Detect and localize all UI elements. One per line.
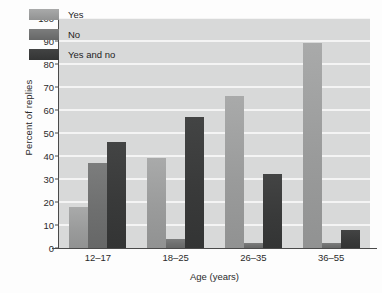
bar-group bbox=[225, 18, 282, 248]
y-axis-tick-label: 30 bbox=[24, 174, 54, 185]
x-axis-tick-label: 18–25 bbox=[162, 252, 188, 263]
bar bbox=[225, 96, 244, 248]
legend-swatch bbox=[29, 9, 59, 20]
y-axis-tick-label: 40 bbox=[24, 151, 54, 162]
y-axis-tick-label: 70 bbox=[24, 82, 54, 93]
legend-label: Yes bbox=[68, 9, 84, 20]
legend-item: Yes bbox=[29, 6, 169, 23]
legend-swatch bbox=[29, 49, 59, 60]
x-axis-tick-label: 26–35 bbox=[240, 252, 266, 263]
bar bbox=[185, 117, 204, 248]
y-axis-tick-label: 10 bbox=[24, 220, 54, 231]
bar bbox=[147, 158, 166, 248]
chart-legend: YesNoYes and no bbox=[29, 6, 169, 66]
x-axis-tick-labels: 12–1718–2526–3536–55 bbox=[59, 252, 370, 268]
bar bbox=[166, 239, 185, 248]
bar-chart-figure: Percent of replies 010203040506070809010… bbox=[0, 0, 382, 293]
bar bbox=[69, 207, 88, 248]
bar bbox=[107, 142, 126, 248]
x-axis-tick-label: 12–17 bbox=[85, 252, 111, 263]
bar bbox=[341, 230, 360, 248]
y-axis-tick-label: 20 bbox=[24, 197, 54, 208]
bar bbox=[322, 243, 341, 248]
legend-label: No bbox=[68, 29, 80, 40]
x-axis-tick-label: 36–55 bbox=[318, 252, 344, 263]
bar-group bbox=[303, 18, 360, 248]
x-axis-title: Age (years) bbox=[59, 271, 370, 282]
x-axis-line bbox=[52, 248, 377, 249]
legend-label: Yes and no bbox=[68, 49, 115, 60]
bar bbox=[244, 243, 263, 248]
y-axis-tick-label: 50 bbox=[24, 128, 54, 139]
y-axis-tick-label: 60 bbox=[24, 105, 54, 116]
legend-swatch bbox=[29, 29, 59, 40]
legend-item: Yes and no bbox=[29, 46, 169, 63]
y-axis-tick-label: 0 bbox=[24, 243, 54, 254]
bar bbox=[88, 163, 107, 248]
bar bbox=[263, 174, 282, 248]
legend-item: No bbox=[29, 26, 169, 43]
bar bbox=[303, 43, 322, 248]
